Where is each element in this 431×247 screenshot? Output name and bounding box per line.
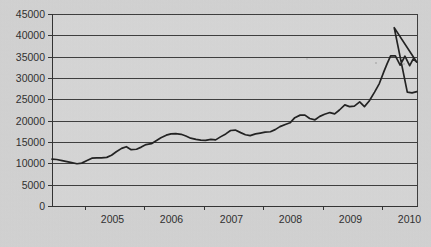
chart-container: 0500010000150002000025000300003500040000… <box>0 0 431 247</box>
y-axis-label: 5000 <box>22 179 46 191</box>
x-axis-label: 2008 <box>279 213 303 225</box>
x-axis-label: 2006 <box>160 213 184 225</box>
y-axis-label: 30000 <box>16 72 45 84</box>
y-axis-label: 0 <box>39 200 45 212</box>
x-axis-label: 2009 <box>339 213 363 225</box>
x-axis-label: 2007 <box>220 213 244 225</box>
paper-speck <box>403 63 405 65</box>
y-axis-label: 40000 <box>16 29 45 41</box>
x-axis-label: 2005 <box>101 213 125 225</box>
line-chart: 0500010000150002000025000300003500040000… <box>0 0 431 247</box>
plot-area-background <box>52 14 418 206</box>
y-axis-label: 45000 <box>16 8 45 20</box>
y-axis-label: 20000 <box>16 115 45 127</box>
y-axis-label: 15000 <box>16 136 45 148</box>
paper-speck <box>375 62 377 64</box>
y-axis-label: 25000 <box>16 93 45 105</box>
x-axis-label: 2010 <box>398 213 422 225</box>
y-axis-label: 35000 <box>16 51 45 63</box>
y-axis-label: 10000 <box>16 157 45 169</box>
paper-speck <box>306 58 308 60</box>
